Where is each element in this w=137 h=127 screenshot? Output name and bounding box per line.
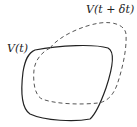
label-volume-t-dt: V(t + δt) xyxy=(86,4,134,15)
volume-t-solid-curve xyxy=(22,46,113,121)
diagram-canvas: V(t) V(t + δt) xyxy=(0,0,137,127)
volume-diagram xyxy=(0,0,137,127)
label-volume-t: V(t) xyxy=(7,43,28,54)
